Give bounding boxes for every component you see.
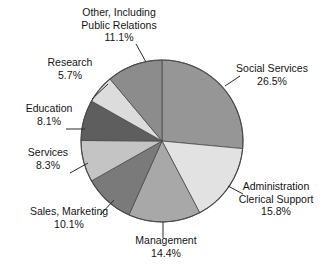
slice-label-sales-marketing: Sales, Marketing 10.1% [16, 205, 122, 230]
slice-label-management: Management 14.4% [118, 234, 214, 259]
slice-label-administration: Administration Clerical Support 15.8% [222, 180, 330, 218]
slice-value-social-services: 26.5% [216, 75, 328, 88]
pie-chart-figure: Other, Including Public Relations 11.1% … [0, 0, 332, 269]
slice-label-social-services: Social Services 26.5% [216, 62, 328, 87]
leader-line-other [136, 44, 146, 62]
slice-value-research: 5.7% [28, 69, 112, 82]
slice-label-other: Other, Including Public Relations 11.1% [60, 6, 178, 44]
slice-value-management: 14.4% [118, 247, 214, 260]
slice-value-education: 8.1% [6, 115, 92, 128]
slice-label-education: Education 8.1% [6, 102, 92, 127]
slice-label-education-line1: Education [6, 102, 92, 115]
slice-label-management-line1: Management [118, 234, 214, 247]
slice-label-research-line1: Research [28, 56, 112, 69]
slice-value-sales-marketing: 10.1% [16, 218, 122, 231]
slice-label-other-line2: Public Relations [60, 19, 178, 32]
slice-value-services: 8.3% [10, 159, 86, 172]
slice-label-services-line1: Services [10, 146, 86, 159]
slice-label-research: Research 5.7% [28, 56, 112, 81]
slice-value-administration: 15.8% [222, 205, 330, 218]
slice-label-sales-marketing-line1: Sales, Marketing [16, 205, 122, 218]
slice-label-social-services-line1: Social Services [216, 62, 328, 75]
slice-label-administration-line2: Clerical Support [222, 193, 330, 206]
slice-value-other: 11.1% [60, 31, 178, 44]
slice-label-administration-line1: Administration [222, 180, 330, 193]
slice-label-other-line1: Other, Including [60, 6, 178, 19]
slice-label-services: Services 8.3% [10, 146, 86, 171]
